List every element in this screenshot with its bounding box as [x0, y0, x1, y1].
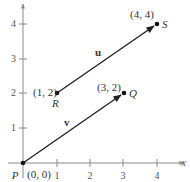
point-q: (3, 2) Q: [97, 81, 137, 99]
point-s-name: S: [162, 18, 168, 30]
x-tick-label-3: 3: [121, 170, 126, 181]
y-axis: 1 2 3 4: [11, 4, 27, 178]
point-p-name: P: [11, 169, 19, 181]
x-axis-label: x: [181, 157, 187, 168]
y-tick-label-1: 1: [11, 122, 16, 133]
x-tick-label-1: 1: [55, 170, 60, 181]
point-p: P (0, 0): [11, 161, 52, 181]
point-q-coords: (3, 2): [97, 81, 121, 94]
point-p-dot: [21, 161, 26, 166]
x-tick-label-4: 4: [155, 170, 160, 181]
point-p-coords: (0, 0): [27, 168, 51, 181]
y-tick-label-3: 3: [11, 53, 16, 64]
point-s: (4, 4) S: [130, 8, 168, 30]
point-q-name: Q: [129, 87, 137, 99]
point-r: (1, 2) R: [33, 86, 59, 109]
point-q-dot: [122, 91, 127, 96]
y-tick-label-4: 4: [11, 18, 16, 29]
x-tick-label-2: 2: [88, 170, 93, 181]
point-s-coords: (4, 4): [130, 8, 154, 21]
vector-u-label: u: [95, 46, 101, 58]
point-r-name: R: [51, 97, 59, 109]
y-tick-label-2: 2: [11, 87, 16, 98]
coordinate-diagram: 1 2 3 4 x 1 2 3 4 v u P (0, 0) (1, 2) R: [0, 0, 190, 182]
vector-v: v: [23, 95, 121, 163]
point-s-dot: [155, 22, 160, 27]
vector-v-arrow: [23, 95, 121, 163]
vector-v-label: v: [64, 116, 70, 128]
